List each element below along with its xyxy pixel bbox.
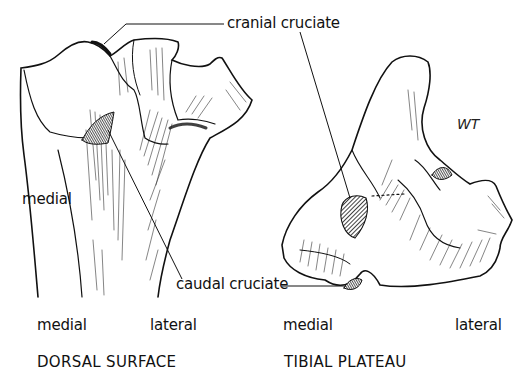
plateau-medial-label: medial: [283, 318, 333, 333]
dorsal-side-medial-label: medial: [22, 192, 72, 207]
dorsal-lateral-label: lateral: [150, 318, 197, 333]
dorsal-surface-bone: [20, 39, 252, 297]
caudal-cruciate-label: caudal cruciate: [176, 277, 288, 292]
artist-signature: WT: [457, 116, 479, 132]
leader-lines: [104, 24, 350, 286]
cranial-cruciate-label: cranial cruciate: [227, 16, 340, 31]
tibial-plateau-bone: [282, 56, 512, 290]
tibial-plateau-caption: TIBIAL PLATEAU: [284, 355, 407, 370]
dorsal-surface-caption: DORSAL SURFACE: [37, 355, 176, 370]
dorsal-medial-label: medial: [37, 318, 87, 333]
plateau-lateral-label: lateral: [455, 318, 502, 333]
